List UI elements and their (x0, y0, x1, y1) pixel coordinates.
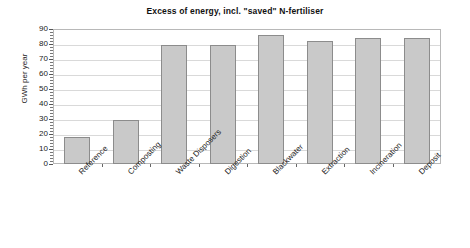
bar (113, 120, 139, 164)
y-axis-tick-label: 80 (4, 40, 48, 48)
y-axis-minor-tick (50, 143, 53, 144)
y-axis-tick (49, 164, 53, 165)
y-axis-minor-tick (50, 71, 53, 72)
x-axis-label-slot: Extraction (296, 164, 345, 248)
y-axis-minor-tick (50, 92, 53, 93)
y-axis-labels: 0102030405060708090 (0, 0, 48, 248)
y-axis-tick (49, 104, 53, 105)
y-axis-minor-tick (50, 128, 53, 129)
y-axis-minor-tick (50, 50, 53, 51)
y-axis-minor-tick (50, 35, 53, 36)
y-axis-minor-tick (50, 41, 53, 42)
y-axis-minor-tick (50, 131, 53, 132)
y-axis-tick (49, 119, 53, 120)
y-axis-tick (49, 29, 53, 30)
bar (307, 41, 333, 164)
y-axis-tick-label: 60 (4, 70, 48, 78)
y-axis-tick-label: 10 (4, 145, 48, 153)
x-axis-label-slot: Incineration (344, 164, 393, 248)
x-axis-tick (199, 164, 200, 167)
y-axis-minor-tick (50, 62, 53, 63)
x-axis-tick (247, 164, 248, 167)
bar (161, 45, 187, 164)
x-axis-label-slot: Waste Disposers (150, 164, 199, 248)
y-axis-minor-tick (50, 158, 53, 159)
bar (210, 45, 236, 164)
y-axis-minor-tick (50, 86, 53, 87)
y-axis-minor-tick (50, 65, 53, 66)
y-axis-minor-tick (50, 155, 53, 156)
y-axis-minor-tick (50, 83, 53, 84)
x-axis-tick (296, 164, 297, 167)
y-axis-minor-tick (50, 80, 53, 81)
y-axis-minor-tick (50, 98, 53, 99)
bar (404, 38, 430, 164)
y-axis-tick-label: 0 (4, 160, 48, 168)
x-axis-label-slot: Digestion (199, 164, 248, 248)
y-axis-tick-label: 20 (4, 130, 48, 138)
y-axis-minor-tick (50, 110, 53, 111)
bars-container (53, 29, 441, 164)
y-axis-tick-label: 50 (4, 85, 48, 93)
y-axis-minor-tick (50, 32, 53, 33)
y-axis-tick (49, 44, 53, 45)
x-axis-tick (344, 164, 345, 167)
y-axis-minor-tick (50, 101, 53, 102)
y-axis-minor-tick (50, 77, 53, 78)
x-axis-tick (102, 164, 103, 167)
y-axis-minor-tick (50, 38, 53, 39)
bar (258, 35, 284, 164)
x-axis-tick (150, 164, 151, 167)
x-axis-label-slot: Blackwater (247, 164, 296, 248)
y-axis-tick (49, 134, 53, 135)
y-axis-tick (49, 59, 53, 60)
y-axis-tick-label: 40 (4, 100, 48, 108)
y-axis-minor-tick (50, 140, 53, 141)
y-axis-minor-tick (50, 47, 53, 48)
x-axis-label-slot: Reference (53, 164, 102, 248)
y-axis-minor-tick (50, 137, 53, 138)
y-axis-minor-tick (50, 107, 53, 108)
x-axis-labels: ReferenceCompostingWaste DisposersDigest… (53, 164, 441, 248)
y-axis-minor-tick (50, 122, 53, 123)
y-axis-minor-tick (50, 56, 53, 57)
y-axis-minor-tick (50, 152, 53, 153)
y-axis-minor-tick (50, 161, 53, 162)
y-axis-tick-label: 90 (4, 25, 48, 33)
y-axis-minor-tick (50, 113, 53, 114)
y-axis-minor-tick (50, 146, 53, 147)
y-axis-tick-label: 70 (4, 55, 48, 63)
y-axis-tick (49, 149, 53, 150)
bar-chart: Excess of energy, incl. "saved" N-fertil… (0, 0, 470, 248)
y-axis-minor-tick (50, 116, 53, 117)
y-axis-minor-tick (50, 125, 53, 126)
x-axis-label-slot: Deposit (393, 164, 442, 248)
y-axis-tick (49, 89, 53, 90)
bar (355, 38, 381, 164)
x-axis-label-slot: Composting (102, 164, 151, 248)
y-axis-tick (49, 74, 53, 75)
y-axis-tick-label: 30 (4, 115, 48, 123)
y-axis-minor-tick (50, 53, 53, 54)
x-axis-tick (393, 164, 394, 167)
y-axis-minor-tick (50, 68, 53, 69)
y-axis-minor-tick (50, 95, 53, 96)
chart-title: Excess of energy, incl. "saved" N-fertil… (0, 6, 470, 16)
